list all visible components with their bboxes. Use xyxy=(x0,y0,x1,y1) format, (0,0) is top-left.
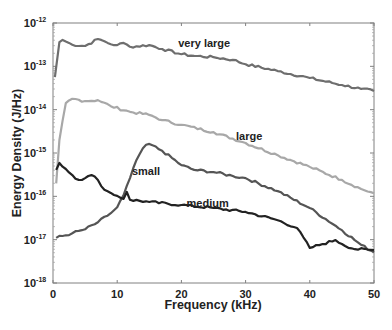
energy-density-chart: 01020304050 10-1210-1310-1410-1510-1610-… xyxy=(0,0,392,330)
series-label-medium: medium xyxy=(187,197,229,209)
y-tick-label: 10-18 xyxy=(24,276,46,289)
y-tick-label: 10-13 xyxy=(24,59,46,72)
y-tick-label: 10-16 xyxy=(24,189,46,202)
y-axis-title: Energy Density (J/Hz) xyxy=(10,89,24,218)
x-axis-title: Frequency (kHz) xyxy=(164,298,261,312)
y-tick-label: 10-15 xyxy=(24,146,46,159)
x-tick-label: 40 xyxy=(304,288,316,300)
x-tick-label: 50 xyxy=(368,288,380,300)
x-tick-label: 10 xyxy=(111,288,123,300)
y-tick-label: 10-17 xyxy=(24,233,46,246)
series-label-small: small xyxy=(132,165,160,177)
plot-area: 01020304050 10-1210-1310-1410-1510-1610-… xyxy=(24,16,380,300)
y-tick-label: 10-14 xyxy=(24,103,46,116)
x-tick-label: 0 xyxy=(50,288,56,300)
series-label-large: large xyxy=(236,130,262,142)
y-tick-label: 10-12 xyxy=(24,16,46,29)
series-label-very-large: very large xyxy=(178,37,230,49)
